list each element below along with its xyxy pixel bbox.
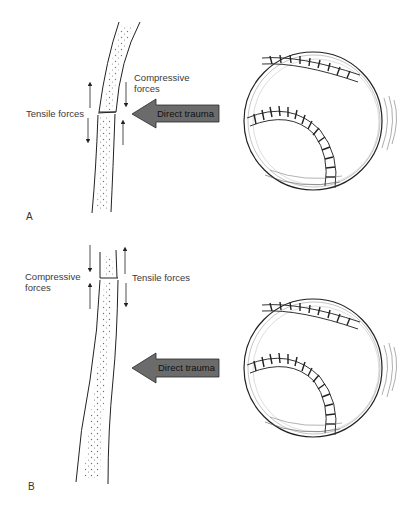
panel-a-baseball — [244, 52, 397, 190]
motion-lines — [382, 96, 397, 150]
panel-a-compressive-label-line1: Compressive — [134, 72, 189, 83]
panel-b-compressive-label-line1: Compressive — [25, 271, 80, 282]
panel-a-compressive-label-line2: forces — [134, 83, 160, 94]
panel-a-tensile-forces-label: Tensile forces — [26, 108, 84, 119]
panel-b-bone — [76, 250, 118, 484]
panel-b-compressive-label-line2: forces — [25, 282, 51, 293]
panel-b-letter: B — [28, 481, 35, 492]
motion-lines — [382, 343, 397, 397]
panel-b-baseball — [244, 299, 397, 437]
panel-a-letter: A — [26, 211, 33, 222]
figure-canvas — [0, 0, 416, 512]
panel-a-direct-trauma-label: Direct trauma — [157, 108, 214, 119]
panel-b-tensile-forces-label: Tensile forces — [132, 272, 190, 283]
panel-b-direct-trauma-label: Direct trauma — [158, 362, 215, 373]
panel-a-bone — [92, 22, 140, 213]
